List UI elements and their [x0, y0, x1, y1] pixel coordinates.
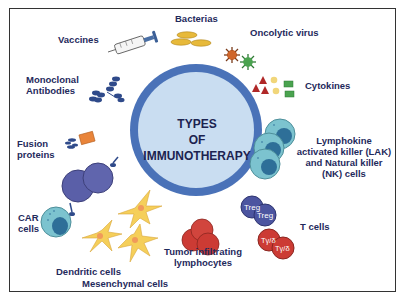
- hub-title: TYPES OF IMMUNOTHERAPY: [138, 116, 256, 164]
- label-line: Tumor infiltrating: [157, 246, 249, 257]
- dendritic-cell-icon: [82, 220, 158, 262]
- label-line: Lymphokine: [296, 135, 392, 146]
- label-cytokines: Cytokines: [305, 80, 350, 91]
- label-line: CAR: [18, 212, 39, 223]
- label-line: (NK) cells: [296, 168, 392, 179]
- label-vaccines: Vaccines: [58, 34, 99, 45]
- hub-title-line-3: IMMUNOTHERAPY: [138, 148, 256, 164]
- label-lak-nk: Lymphokine activated killer (LAK) and Na…: [296, 135, 392, 179]
- label-line: Antibodies: [26, 85, 79, 96]
- antibody-icon: [89, 77, 125, 103]
- label-line: activated killer (LAK): [296, 146, 392, 157]
- hub-title-line-2: OF: [138, 132, 256, 148]
- label-fusion-proteins: Fusion proteins: [17, 138, 54, 160]
- label-line: proteins: [17, 149, 54, 160]
- label-line: lymphocytes: [157, 257, 249, 268]
- label-line: Fusion: [17, 138, 54, 149]
- tgd-tag-2: Tγ/δ: [275, 243, 290, 254]
- label-line: Monoclonal: [26, 74, 79, 85]
- fusion-protein-icon: [65, 131, 95, 148]
- label-oncolytic-virus: Oncolytic virus: [250, 27, 319, 38]
- bacteria-icon: [171, 32, 211, 46]
- treg-tag-2: Treg: [257, 210, 273, 221]
- label-bacterias: Bacterias: [175, 13, 218, 24]
- label-car-cells: CAR cells: [18, 212, 39, 234]
- hub-title-line-1: TYPES: [138, 116, 256, 132]
- syringe-icon: [106, 31, 158, 58]
- cytokine-icon: [252, 76, 294, 97]
- label-mesenchymal-cells: Mesenchymal cells: [82, 278, 168, 289]
- label-dendritic-cells: Dendritic cells: [56, 266, 121, 277]
- mesenchymal-cell-icon: [118, 190, 162, 228]
- virus-icon: [224, 47, 256, 70]
- car-cell-icon: [41, 157, 118, 237]
- label-line: and Natural killer: [296, 157, 392, 168]
- label-t-cells: T cells: [300, 221, 330, 232]
- tgd-tag-1: Tγ/δ: [261, 235, 276, 246]
- label-line: cells: [18, 223, 39, 234]
- label-monoclonal-antibodies: Monoclonal Antibodies: [26, 74, 79, 96]
- label-tumor-infiltrating-lymphocytes: Tumor infiltrating lymphocytes: [157, 246, 249, 268]
